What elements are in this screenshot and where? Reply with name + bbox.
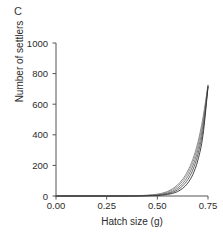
axis-spines: [56, 43, 208, 196]
data-curves: [56, 85, 208, 196]
data-curve: [56, 87, 208, 196]
data-curve: [56, 86, 208, 196]
x-axis-ticks: [56, 196, 208, 200]
plot-area: [0, 0, 223, 237]
data-curve: [56, 86, 208, 196]
data-curve: [56, 87, 208, 196]
y-axis-ticks: [53, 43, 57, 196]
chart-figure: C Number of settlers 1000 800 600 400 20…: [0, 0, 223, 237]
data-curve: [56, 85, 208, 196]
